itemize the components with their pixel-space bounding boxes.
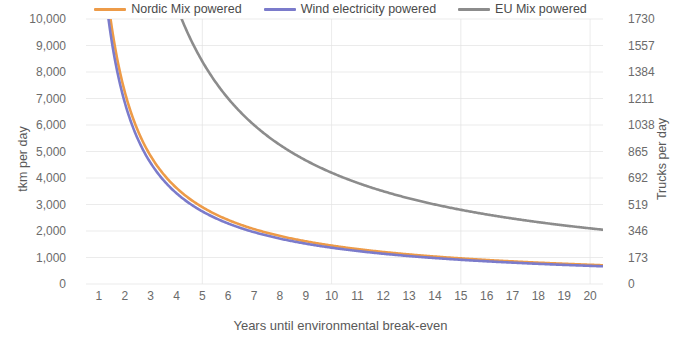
y-axis-left-tick-label: 7,000 xyxy=(0,93,66,105)
series-line-eu-mix-powered xyxy=(142,0,603,230)
y-axis-right-tick-label: 173 xyxy=(628,252,678,264)
x-axis-tick-label: 20 xyxy=(577,290,603,302)
y-axis-left-tick-label: 0 xyxy=(0,278,66,290)
y-axis-right-tick-label: 1211 xyxy=(628,93,678,105)
x-axis-tick-label: 10 xyxy=(319,290,345,302)
x-axis-tick-label: 3 xyxy=(138,290,164,302)
x-axis-tick-label: 6 xyxy=(215,290,241,302)
legend-item-wind-electricity-powered[interactable]: Wind electricity powered xyxy=(264,3,436,16)
y-axis-right-tick-label: 1557 xyxy=(628,40,678,52)
legend-item-nordic-mix-powered[interactable]: Nordic Mix powered xyxy=(94,3,241,16)
legend-label-nordic: Nordic Mix powered xyxy=(131,3,241,16)
x-axis-tick-label: 13 xyxy=(396,290,422,302)
y-axis-right-tick-label: 519 xyxy=(628,199,678,211)
y-axis-right-tick-label: 1730 xyxy=(628,13,678,25)
y-axis-left-tick-label: 4,000 xyxy=(0,172,66,184)
x-axis-tick-label: 8 xyxy=(267,290,293,302)
x-axis-tick-label: 4 xyxy=(163,290,189,302)
y-axis-left-tick-label: 8,000 xyxy=(0,66,66,78)
y-axis-right-tick-label: 1038 xyxy=(628,119,678,131)
legend-swatch-icon-eu xyxy=(458,8,490,11)
x-axis-tick-label: 16 xyxy=(474,290,500,302)
x-axis-tick-label: 1 xyxy=(86,290,112,302)
x-axis-tick-label: 14 xyxy=(422,290,448,302)
series-line-wind-electricity-powered xyxy=(95,0,603,266)
y-axis-right-tick-label: 692 xyxy=(628,172,678,184)
legend-swatch-icon-wind xyxy=(264,8,296,11)
legend-item-eu-mix-powered[interactable]: EU Mix powered xyxy=(458,3,587,16)
gridlines xyxy=(86,19,603,284)
x-axis-tick-label: 5 xyxy=(189,290,215,302)
y-axis-right-tick-label: 865 xyxy=(628,146,678,158)
chart-container: Nordic Mix powered Wind electricity powe… xyxy=(0,0,681,340)
y-axis-left-tick-label: 10,000 xyxy=(0,13,66,25)
y-axis-right-tick-label: 0 xyxy=(628,278,678,290)
x-axis-tick-label: 18 xyxy=(525,290,551,302)
y-axis-left-tick-label: 6,000 xyxy=(0,119,66,131)
x-axis-tick-label: 11 xyxy=(344,290,370,302)
x-axis-tick-label: 7 xyxy=(241,290,267,302)
x-axis-tick-label: 19 xyxy=(551,290,577,302)
y-axis-left-tick-label: 2,000 xyxy=(0,225,66,237)
y-axis-right-tick-label: 1384 xyxy=(628,66,678,78)
plot-svg xyxy=(86,19,603,284)
x-axis-tick-label: 2 xyxy=(112,290,138,302)
y-axis-right-tick-label: 346 xyxy=(628,225,678,237)
plot-area xyxy=(86,19,603,284)
x-axis-tick-label: 9 xyxy=(293,290,319,302)
series-line-nordic-mix-powered xyxy=(97,0,603,265)
x-axis-title: Years until environmental break-even xyxy=(0,318,681,333)
x-axis-tick-label: 15 xyxy=(448,290,474,302)
y-axis-left-tick-label: 1,000 xyxy=(0,252,66,264)
x-axis-tick-label: 12 xyxy=(370,290,396,302)
y-axis-left-tick-label: 5,000 xyxy=(0,146,66,158)
series-lines xyxy=(95,0,603,266)
legend-label-wind: Wind electricity powered xyxy=(301,3,436,16)
legend-label-eu: EU Mix powered xyxy=(495,3,587,16)
y-axis-left-tick-label: 3,000 xyxy=(0,199,66,211)
x-axis-tick-label: 17 xyxy=(500,290,526,302)
chart-legend: Nordic Mix powered Wind electricity powe… xyxy=(0,1,681,17)
y-axis-left-tick-label: 9,000 xyxy=(0,40,66,52)
legend-swatch-icon-nordic xyxy=(94,8,126,11)
